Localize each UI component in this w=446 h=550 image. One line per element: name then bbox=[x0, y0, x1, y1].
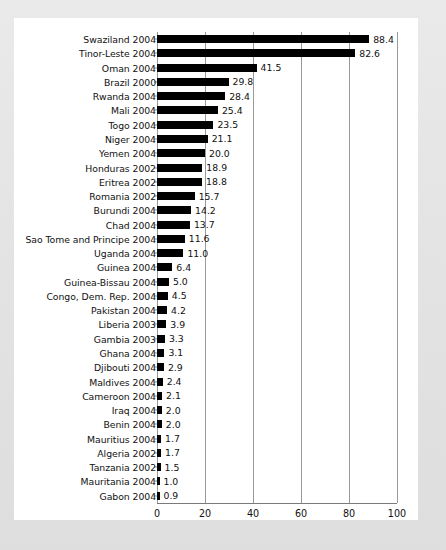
bar-rows-group: Swaziland 200488.4Tinor-Leste 200482.6Om… bbox=[14, 32, 418, 503]
bar-row[interactable]: Gambia 20033.3 bbox=[14, 332, 418, 346]
bar[interactable] bbox=[157, 35, 369, 43]
bar-row[interactable]: Chad 200413.7 bbox=[14, 217, 418, 231]
bar-with-value: 82.6 bbox=[157, 49, 380, 57]
bar-row[interactable]: Niger 200421.1 bbox=[14, 132, 418, 146]
bar-value-label: 15.7 bbox=[199, 191, 220, 202]
bar[interactable] bbox=[157, 78, 229, 86]
bar-value-label: 18.9 bbox=[206, 162, 227, 173]
bar-row[interactable]: Congo, Dem. Rep. 20044.5 bbox=[14, 289, 418, 303]
bar-category-label: Uganda 2004 bbox=[94, 248, 156, 259]
bar[interactable] bbox=[157, 49, 355, 57]
bar-row[interactable]: Liberia 20033.9 bbox=[14, 317, 418, 331]
bar-row[interactable]: Mali 200425.4 bbox=[14, 103, 418, 117]
bar-with-value: 4.5 bbox=[157, 292, 187, 300]
bar-row[interactable]: Romania 200215.7 bbox=[14, 189, 418, 203]
x-tick-label-40: 40 bbox=[247, 508, 259, 519]
bar-row[interactable]: Algeria 20021.7 bbox=[14, 446, 418, 460]
bar[interactable] bbox=[157, 263, 172, 271]
bar-row[interactable]: Rwanda 200428.4 bbox=[14, 89, 418, 103]
bar-with-value: 20.0 bbox=[157, 149, 230, 157]
bar-with-value: 4.2 bbox=[157, 306, 186, 314]
bar-value-label: 13.7 bbox=[194, 219, 215, 230]
bar[interactable] bbox=[157, 477, 160, 485]
bar[interactable] bbox=[157, 363, 164, 371]
bar-value-label: 2.0 bbox=[166, 419, 181, 430]
bar-row[interactable]: Gabon 20040.9 bbox=[14, 489, 418, 503]
bar-row[interactable]: Oman 200441.5 bbox=[14, 61, 418, 75]
bar[interactable] bbox=[157, 378, 163, 386]
bar[interactable] bbox=[157, 149, 205, 157]
bar-category-label: Guinea 2004 bbox=[97, 262, 156, 273]
bar-row[interactable]: Brazil 200029.8 bbox=[14, 75, 418, 89]
bar-row[interactable]: Uganda 200411.0 bbox=[14, 246, 418, 260]
bar[interactable] bbox=[157, 392, 162, 400]
bar-row[interactable]: Cameroon 20042.1 bbox=[14, 389, 418, 403]
bar[interactable] bbox=[157, 278, 169, 286]
bar-category-label: Chad 2004 bbox=[106, 219, 156, 230]
bar-category-label: Brazil 2000 bbox=[104, 76, 156, 87]
bar-category-label: Gabon 2004 bbox=[100, 490, 157, 501]
bar-row[interactable]: Iraq 20042.0 bbox=[14, 403, 418, 417]
bar-category-label: Gambia 2003 bbox=[94, 333, 156, 344]
bar[interactable] bbox=[157, 406, 162, 414]
bar-with-value: 1.5 bbox=[157, 463, 179, 471]
bar-row[interactable]: Guinea 20046.4 bbox=[14, 260, 418, 274]
bar-category-label: Ghana 2004 bbox=[100, 347, 157, 358]
bar-value-label: 88.4 bbox=[373, 34, 394, 45]
bar[interactable] bbox=[157, 121, 213, 129]
bar-row[interactable]: Guinea-Bissau 20045.0 bbox=[14, 275, 418, 289]
bar-with-value: 18.9 bbox=[157, 164, 227, 172]
bar-with-value: 29.8 bbox=[157, 78, 253, 86]
bar[interactable] bbox=[157, 92, 225, 100]
bar[interactable] bbox=[157, 192, 195, 200]
bar-row[interactable]: Maldives 20042.4 bbox=[14, 374, 418, 388]
bar[interactable] bbox=[157, 420, 162, 428]
bar-category-label: Mali 2004 bbox=[111, 105, 156, 116]
bar-row[interactable]: Mauritania 20041.0 bbox=[14, 474, 418, 488]
bar-row[interactable]: Mauritius 20041.7 bbox=[14, 431, 418, 445]
bar-value-label: 28.4 bbox=[229, 91, 250, 102]
bar-row[interactable]: Pakistan 20044.2 bbox=[14, 303, 418, 317]
bar-row[interactable]: Tanzania 20021.5 bbox=[14, 460, 418, 474]
bar-row[interactable]: Tinor-Leste 200482.6 bbox=[14, 46, 418, 60]
bar[interactable] bbox=[157, 435, 161, 443]
bar[interactable] bbox=[157, 320, 166, 328]
bar-value-label: 3.3 bbox=[169, 333, 184, 344]
bar-value-label: 5.0 bbox=[173, 276, 188, 287]
bar[interactable] bbox=[157, 449, 161, 457]
bar-with-value: 28.4 bbox=[157, 92, 250, 100]
bar-value-label: 1.0 bbox=[164, 476, 179, 487]
bar-row[interactable]: Sao Tome and Principe 200411.6 bbox=[14, 232, 418, 246]
bar[interactable] bbox=[157, 206, 191, 214]
bar[interactable] bbox=[157, 164, 202, 172]
bar-row[interactable]: Togo 200423.5 bbox=[14, 118, 418, 132]
bar-row[interactable]: Honduras 200218.9 bbox=[14, 160, 418, 174]
bar-row[interactable]: Djibouti 20042.9 bbox=[14, 360, 418, 374]
bar-row[interactable]: Swaziland 200488.4 bbox=[14, 32, 418, 46]
bar[interactable] bbox=[157, 106, 218, 114]
bar[interactable] bbox=[157, 292, 168, 300]
bar-row[interactable]: Benin 20042.0 bbox=[14, 417, 418, 431]
bar[interactable] bbox=[157, 249, 183, 257]
bar[interactable] bbox=[157, 492, 160, 500]
bar[interactable] bbox=[157, 349, 164, 357]
bar[interactable] bbox=[157, 64, 257, 72]
bar-category-label: Oman 2004 bbox=[102, 62, 156, 73]
bar-value-label: 6.4 bbox=[176, 262, 191, 273]
bar[interactable] bbox=[157, 463, 161, 471]
bar-row[interactable]: Yemen 200420.0 bbox=[14, 146, 418, 160]
bar-value-label: 29.8 bbox=[233, 76, 254, 87]
bar[interactable] bbox=[157, 221, 190, 229]
bar-row[interactable]: Ghana 20043.1 bbox=[14, 346, 418, 360]
bar[interactable] bbox=[157, 178, 202, 186]
bar-value-label: 2.0 bbox=[166, 405, 181, 416]
bar-row[interactable]: Burundi 200414.2 bbox=[14, 203, 418, 217]
bar[interactable] bbox=[157, 306, 167, 314]
bar-with-value: 41.5 bbox=[157, 64, 281, 72]
bar-value-label: 0.9 bbox=[164, 490, 179, 501]
bar-row[interactable]: Eritrea 200218.8 bbox=[14, 175, 418, 189]
bar[interactable] bbox=[157, 335, 165, 343]
bar-with-value: 2.0 bbox=[157, 406, 181, 414]
bar[interactable] bbox=[157, 135, 208, 143]
bar[interactable] bbox=[157, 235, 185, 243]
